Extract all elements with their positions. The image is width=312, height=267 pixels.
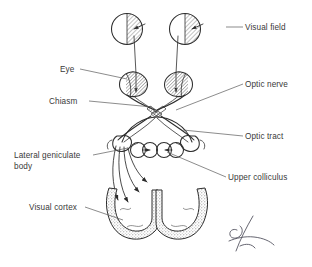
label-lateral-geniculate-body-line2: body [14,162,33,171]
label-upper-colliculus: Upper colliculus [228,173,287,182]
label-optic-nerve: Optic nerve [245,80,288,89]
label-visual-cortex: Visual cortex [29,203,77,212]
visual-field-right [170,13,204,47]
label-visual-field: Visual field [245,23,286,32]
label-eye: Eye [60,65,75,74]
leader-visual-cortex [85,207,123,220]
visual-cortex-left [106,188,158,239]
leader-optic-tract [183,130,243,136]
visual-pathway-diagram: Visual field Eye Chiasm Optic nerve Opti… [0,0,312,267]
optic-radiations [113,146,147,202]
visual-field-left [112,13,146,47]
label-chiasm: Chiasm [49,97,77,106]
eye-left [120,70,149,100]
eye-right [165,70,193,100]
optic-tract-right [157,116,194,142]
leader-eye [80,69,127,79]
visual-cortex-right [156,188,208,239]
figure-canvas: Visual field Eye Chiasm Optic nerve Opti… [0,0,312,267]
leader-upper-colliculus [167,152,226,177]
signature [229,216,274,251]
lgn-right [181,136,205,152]
optic-nerve-right [155,95,186,113]
label-optic-tract: Optic tract [245,132,284,141]
label-lateral-geniculate-body: Lateral geniculate [14,151,81,160]
